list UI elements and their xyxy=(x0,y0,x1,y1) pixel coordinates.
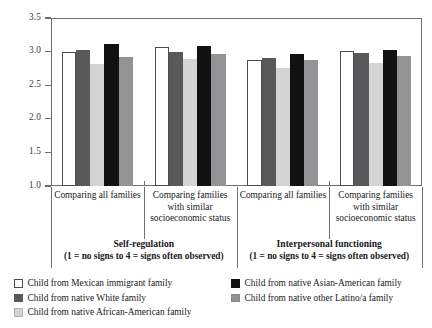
group-separator-tick xyxy=(144,181,145,186)
legend-column-right: Child from native Asian-American familyC… xyxy=(231,276,402,305)
bar xyxy=(290,54,304,186)
bar xyxy=(76,50,90,186)
y-axis-tick-label: 3.0 xyxy=(29,45,41,55)
legend-swatch xyxy=(14,279,23,288)
legend-label: Child from native Asian-American family xyxy=(245,278,402,288)
legend-item: Child from Mexican immigrant family xyxy=(14,276,192,291)
legend-swatch xyxy=(231,279,240,288)
legend-item: Child from native other Latino/a family xyxy=(231,291,402,306)
bar xyxy=(247,60,261,186)
bar xyxy=(197,46,211,186)
category-label: Comparing families with similar socioeco… xyxy=(146,190,235,225)
panel-divider xyxy=(237,187,238,268)
bar xyxy=(62,52,76,186)
legend-label: Child from Mexican immigrant family xyxy=(28,278,173,288)
panel-divider xyxy=(51,187,52,268)
y-axis-tick-label: 2.5 xyxy=(29,79,41,89)
bar xyxy=(262,58,276,186)
bar xyxy=(276,68,290,186)
y-axis-tick-label: 1.0 xyxy=(29,180,41,190)
bar xyxy=(211,54,225,186)
grouped-bar-chart: 3.53.02.52.01.51.0 Comparing all familie… xyxy=(0,0,432,328)
y-axis-tick-label: 2.0 xyxy=(29,112,41,122)
legend-item: Child from native White family xyxy=(14,291,192,306)
bar xyxy=(90,64,104,186)
bar-group xyxy=(329,18,422,186)
legend-swatch xyxy=(14,308,23,317)
bar xyxy=(383,50,397,186)
legend-item: Child from native Asian-American family xyxy=(231,276,402,291)
bar xyxy=(340,51,354,186)
bar xyxy=(369,63,383,186)
legend-swatch xyxy=(231,294,240,303)
panel-scale-note: (1 = no signs to 4 = signs often observe… xyxy=(51,250,237,262)
legend-column-left: Child from Mexican immigrant familyChild… xyxy=(14,276,192,320)
category-label: Comparing families with similar socioeco… xyxy=(331,190,420,225)
panel-label: Self-regulation(1 = no signs to 4 = sign… xyxy=(51,238,237,262)
y-axis-tick-label: 3.5 xyxy=(29,12,41,22)
bar xyxy=(104,44,118,186)
legend-label: Child from native White family xyxy=(28,293,147,303)
panel-divider xyxy=(422,187,423,268)
panel-label: Interpersonal functioning(1 = no signs t… xyxy=(237,238,423,262)
panel-scale-note: (1 = no signs to 4 = signs often observe… xyxy=(237,250,423,262)
legend-swatch xyxy=(14,294,23,303)
y-axis-tick-label: 1.5 xyxy=(29,146,41,156)
bar xyxy=(354,53,368,186)
bar xyxy=(119,57,133,186)
panel-name: Interpersonal functioning xyxy=(237,238,423,250)
bar-group xyxy=(144,18,237,186)
bar xyxy=(155,47,169,186)
bar-groups xyxy=(51,18,422,186)
category-label: Comparing all families xyxy=(53,190,142,202)
legend-item: Child from native African-American famil… xyxy=(14,305,192,320)
panel-name: Self-regulation xyxy=(51,238,237,250)
category-label: Comparing all families xyxy=(239,190,328,202)
bar xyxy=(304,60,318,186)
legend-label: Child from native other Latino/a family xyxy=(245,293,394,303)
bar xyxy=(397,56,411,186)
bar-group xyxy=(237,18,330,186)
chart-legend: Child from Mexican immigrant familyChild… xyxy=(0,276,432,328)
group-separator-tick xyxy=(329,181,330,186)
bar xyxy=(183,59,197,186)
bar-group xyxy=(51,18,144,186)
panel-divider xyxy=(329,187,330,239)
legend-label: Child from native African-American famil… xyxy=(28,307,192,317)
bar xyxy=(169,52,183,186)
panel-divider xyxy=(144,187,145,239)
